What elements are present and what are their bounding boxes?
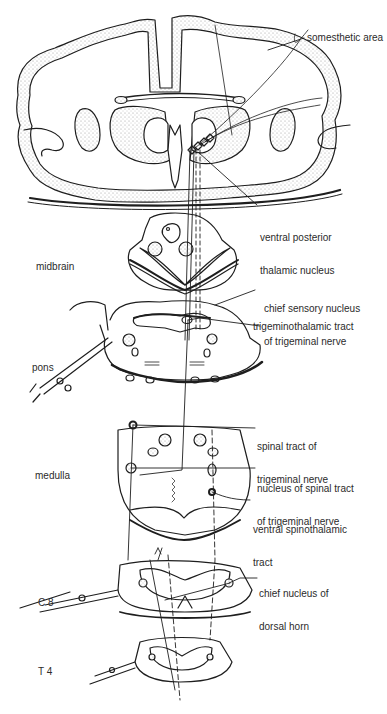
medulla-section xyxy=(118,422,250,541)
cerebrum-section xyxy=(17,16,350,210)
level-label-medulla: medulla xyxy=(35,470,70,481)
label-line: thalamic nucleus xyxy=(260,265,334,276)
label-line: of trigeminal nerve xyxy=(264,336,360,347)
midbrain-section xyxy=(128,213,238,294)
label-chief-sensory-nucleus: chief sensory nucleus of trigeminal nerv… xyxy=(264,281,360,358)
label-line: spinal tract of xyxy=(257,441,328,452)
c8-section xyxy=(20,561,252,618)
label-line: ventral posterior xyxy=(260,232,334,243)
label-line: ventral spinothalamic xyxy=(253,524,347,535)
level-label-t4: T 4 xyxy=(38,666,52,677)
t4-section xyxy=(90,638,232,685)
pons-section xyxy=(30,301,262,402)
level-label-pons: pons xyxy=(32,362,54,373)
level-label-c8: C 8 xyxy=(38,597,54,608)
label-chief-nucleus-dorsal-horn: chief nucleus of dorsal horn xyxy=(259,566,329,643)
label-somesthetic-area: somesthetic area xyxy=(307,32,383,43)
level-label-midbrain: midbrain xyxy=(36,261,74,272)
label-line: nucleus of spinal tract xyxy=(257,483,354,494)
label-line: chief sensory nucleus xyxy=(264,303,360,314)
label-ventral-posterior-thalamic-nucleus: ventral posterior thalamic nucleus xyxy=(260,210,334,287)
label-line: dorsal horn xyxy=(259,621,329,632)
label-line: chief nucleus of xyxy=(259,588,329,599)
label-trigeminothalamic-tract: trigeminothalamic tract xyxy=(253,321,354,332)
